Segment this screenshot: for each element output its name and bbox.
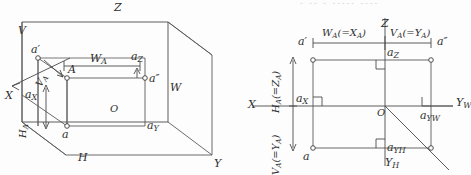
- right-ax-sub: X: [303, 97, 309, 106]
- left-dimh-sub: A: [21, 124, 30, 129]
- right-dimw-close: ): [362, 27, 366, 38]
- left-label-dim-w: WA: [90, 53, 107, 66]
- left-label-point-ay: aY: [147, 120, 159, 133]
- right-label-point-ax: aX: [296, 93, 308, 106]
- left-label-axis-x: X: [5, 90, 13, 101]
- left-ay-sub: Y: [154, 124, 159, 133]
- left-label-point-az: aZ: [131, 51, 143, 64]
- right-ayw-sub: YW: [427, 114, 440, 123]
- right-label-point-ayh: aYH: [387, 142, 406, 155]
- right-dimvl-base: V: [270, 168, 281, 175]
- left-label-plane-v: V: [18, 25, 26, 36]
- right-dimw-eq: (=X: [337, 27, 356, 38]
- right-label-origin: O: [377, 108, 385, 118]
- right-dimvt-eq: (=Y: [402, 27, 421, 38]
- right-az-sub: Z: [394, 51, 400, 60]
- right-label-dim-depth-top: VA(=YA): [390, 28, 430, 39]
- left-label-plane-h: H: [78, 152, 88, 163]
- right-label-dim-height: HA(=ZA): [271, 71, 282, 113]
- right-label-axis-yh: YH: [385, 157, 399, 170]
- right-label-point-a-side: a″: [437, 36, 448, 47]
- right-dimvl-eq: (=Y: [270, 144, 281, 163]
- left-dimw-sub: A: [101, 57, 107, 66]
- right-label-point-a-top: a: [303, 151, 310, 162]
- right-label-axis-x: X: [248, 99, 256, 110]
- left-label-point-a-front: a′: [31, 44, 40, 55]
- left-label-dim-h: HA: [18, 124, 29, 138]
- right-label-point-ayw: aYW: [420, 110, 440, 123]
- right-dimw-base: W: [322, 27, 332, 38]
- left-label-axis-y: Y: [214, 158, 221, 169]
- right-dimh-sub: A: [274, 99, 283, 104]
- left-label-origin: O: [110, 104, 118, 114]
- right-dimvl-sub: A: [274, 163, 283, 168]
- right-label-axis-z: Z: [381, 18, 389, 29]
- right-dimvt-close: ): [427, 27, 431, 38]
- right-dimh-eq: (=Z: [270, 80, 281, 99]
- left-label-point-a-side: a″: [149, 73, 160, 84]
- left-dimw-base: W: [90, 52, 101, 65]
- left-ax-sub: X: [32, 93, 38, 102]
- left-diagram-lines: [0, 0, 235, 174]
- left-dimh-base: H: [17, 129, 28, 138]
- right-dimh-eq-sub: A: [274, 75, 283, 80]
- right-label-dim-width: WA(=XA): [322, 28, 366, 39]
- right-yw-sub: W: [463, 101, 471, 110]
- right-ayh-sub: YH: [394, 146, 406, 155]
- right-label-axis-yw: YW: [456, 97, 471, 110]
- left-label-point-a-top: a: [62, 129, 69, 140]
- left-label-point-ax: aX: [25, 89, 37, 102]
- left-az-sub: Z: [138, 55, 144, 64]
- right-dimh-base: H: [270, 104, 281, 113]
- right-label-point-a-front: a′: [298, 36, 307, 47]
- right-dimh-close: ): [270, 71, 281, 75]
- right-dimvl-close: ): [270, 135, 281, 139]
- right-yh-sub: H: [392, 161, 399, 170]
- right-label-point-az: aZ: [387, 47, 399, 60]
- left-label-plane-w: W: [170, 82, 181, 93]
- left-label-axis-z: Z: [114, 2, 122, 13]
- left-label-point-a-space: A: [68, 64, 76, 75]
- right-label-dim-depth-left: VA(=YA): [271, 135, 282, 175]
- right-dimvl-eq-sub: A: [274, 138, 283, 143]
